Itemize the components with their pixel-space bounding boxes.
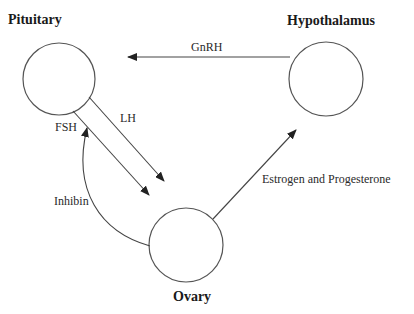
pituitary-label: Pituitary bbox=[8, 12, 62, 27]
estrogen-progesterone-label: Estrogen and Progesterone bbox=[262, 172, 391, 186]
ovary-node bbox=[149, 208, 223, 282]
inhibin-arrow bbox=[83, 128, 150, 246]
pituitary-node bbox=[23, 43, 95, 115]
inhibin-label: Inhibin bbox=[54, 194, 89, 208]
fsh-arrow bbox=[73, 111, 149, 195]
lh-arrow bbox=[89, 97, 164, 181]
gnrh-label: GnRH bbox=[191, 40, 223, 54]
hypothalamus-node bbox=[289, 42, 363, 116]
fsh-label: FSH bbox=[55, 120, 77, 134]
ovary-label: Ovary bbox=[173, 289, 211, 304]
lh-label: LH bbox=[120, 111, 136, 125]
hypothalamus-label: Hypothalamus bbox=[287, 13, 375, 28]
hormone-diagram: Pituitary Hypothalamus Ovary GnRH LH FSH… bbox=[0, 0, 414, 314]
